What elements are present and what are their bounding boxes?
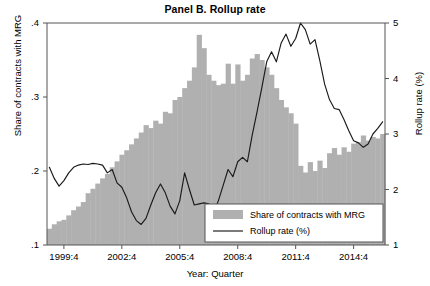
bar [110, 167, 115, 245]
legend-label-share: Share of contracts with MRG [250, 210, 365, 220]
bar [192, 67, 197, 245]
bar [105, 174, 110, 245]
y-tick-label-right: 1 [393, 239, 398, 250]
x-tick-label: 2005:4 [165, 251, 194, 262]
legend-swatch-icon [213, 210, 243, 219]
bar [76, 207, 81, 245]
bar [182, 88, 187, 245]
x-tick-label: 2011:4 [281, 251, 309, 262]
bar [134, 138, 139, 245]
bar [139, 133, 144, 245]
bar [163, 112, 168, 245]
bar [177, 97, 182, 245]
bar [71, 210, 76, 245]
bar [197, 35, 202, 245]
bar [173, 100, 178, 245]
plot-area: .1.2.3.4123451999:42002:42005:42008:4201… [0, 0, 430, 286]
y-tick-label-left: .2 [31, 165, 39, 176]
y-tick-label-left: .4 [31, 17, 39, 28]
bar [81, 202, 86, 245]
bar [52, 224, 57, 245]
bar [119, 155, 124, 245]
bar [129, 144, 134, 245]
bar [66, 215, 71, 245]
y-tick-label-right: 3 [393, 128, 398, 139]
legend-label-rollup: Rollup rate (%) [250, 226, 310, 236]
bar [148, 128, 153, 245]
x-tick-label: 2002:4 [107, 251, 136, 262]
bar [47, 229, 52, 245]
y-tick-label-right: 2 [393, 184, 398, 195]
bar [95, 184, 100, 245]
x-tick-label: 2014:4 [339, 251, 368, 262]
x-tick-label: 2008:4 [223, 251, 252, 262]
bar [144, 125, 149, 245]
bar [100, 178, 105, 245]
bar [153, 121, 158, 245]
y-tick-label-right: 4 [393, 73, 398, 84]
bar [57, 221, 62, 245]
y-tick-label-left: .1 [31, 239, 39, 250]
y-tick-label-right: 5 [393, 17, 398, 28]
y-tick-label-left: .3 [31, 91, 39, 102]
chart-figure: Panel B. Rollup rate Share of contracts … [0, 0, 430, 286]
bar [86, 193, 91, 245]
bar [61, 220, 66, 245]
bar [90, 189, 95, 245]
bar [115, 161, 120, 245]
chart-legend: Share of contracts with MRGRollup rate (… [205, 204, 383, 242]
x-tick-label: 1999:4 [49, 251, 78, 262]
bar [187, 81, 192, 245]
bar [168, 113, 173, 245]
